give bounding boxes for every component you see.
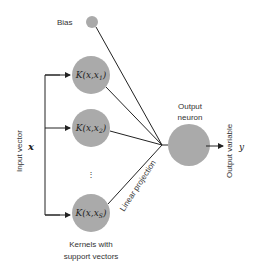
input-bracket (45, 75, 60, 215)
input-symbol: x (27, 141, 35, 152)
kernel-node-2: K(x,x2) (72, 109, 110, 147)
svg-text:K(x,xS): K(x,xS) (75, 208, 107, 219)
svg-text:K(x,x1): K(x,x1) (75, 70, 107, 81)
kernels-caption-line1: Kernels with (69, 240, 113, 249)
kernels-caption-line2: support vectors (64, 252, 119, 261)
svg-text:K(x,x2): K(x,x2) (75, 123, 107, 134)
edge-kernel-2 (110, 131, 162, 145)
output-neuron (168, 124, 210, 166)
kernel-node-1: K(x,x1) (72, 56, 110, 94)
output-variable-label: Output variable (225, 123, 234, 178)
svm-network-diagram: Bias Input vector x K(x,x1) K(x,x2) ⋮ K(… (0, 0, 254, 276)
bias-label: Bias (57, 18, 73, 27)
output-neuron-label-line2: neuron (178, 113, 203, 122)
input-vector-label: Input vector (15, 130, 24, 172)
kernel-node-s: K(x,xS) (72, 194, 110, 232)
output-symbol: y (238, 142, 245, 152)
bias-node (86, 16, 98, 28)
ellipsis: ⋮ (87, 170, 95, 179)
output-neuron-label-line1: Output (178, 102, 203, 111)
